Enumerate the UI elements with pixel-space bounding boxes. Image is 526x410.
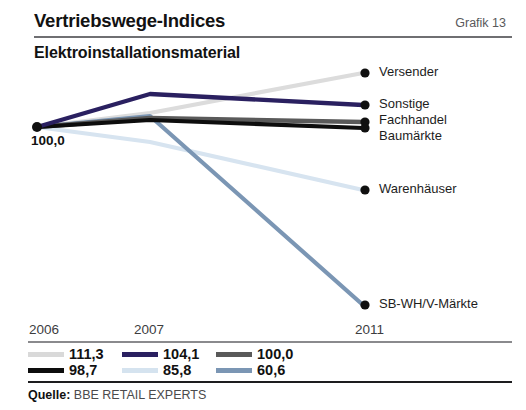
legend-swatch-icon xyxy=(122,352,158,357)
chart-subtitle: Elektroinstallationsmaterial xyxy=(34,44,240,62)
legend-swatch-icon xyxy=(216,368,252,373)
data-point-baumaerkte xyxy=(360,123,369,132)
series-line-baumaerkte xyxy=(37,120,363,128)
chart-page: Vertriebswege-Indices Grafik 13 Elektroi… xyxy=(0,0,526,410)
legend-value: 104,1 xyxy=(163,346,199,362)
series-line-sonstige xyxy=(37,94,363,127)
source-text: BBE RETAIL EXPERTS xyxy=(74,388,206,402)
x-axis-tick-2011: 2011 xyxy=(355,322,384,337)
chart-legend: 111,3 104,1 100,0 98,7 85,8 60,6 xyxy=(28,346,328,378)
series-label-fachhandel: Fachhandel xyxy=(379,113,447,127)
legend-value: 98,7 xyxy=(69,362,97,378)
x-axis-line xyxy=(28,341,512,343)
series-label-sbwh: SB-WH/V-Märkte xyxy=(379,297,478,311)
chart-header: Vertriebswege-Indices Grafik 13 xyxy=(34,10,506,32)
x-axis-tick-2007: 2007 xyxy=(134,322,164,337)
origin-value-label: 100,0 xyxy=(31,133,65,148)
legend-item: 98,7 xyxy=(28,362,122,378)
legend-value: 100,0 xyxy=(257,346,293,362)
x-axis-labels: 2006 2007 2011 xyxy=(0,322,526,342)
series-label-sonstige: Sonstige xyxy=(379,97,430,111)
series-line-warenhaeuser xyxy=(37,127,363,190)
legend-value: 85,8 xyxy=(163,362,191,378)
legend-item: 100,0 xyxy=(216,346,310,362)
data-point-sonstige xyxy=(360,100,369,109)
footer-divider xyxy=(28,381,512,383)
series-label-versender: Versender xyxy=(379,65,438,79)
source-note: Quelle: BBE RETAIL EXPERTS xyxy=(28,388,206,402)
legend-swatch-icon xyxy=(28,368,64,373)
series-label-warenhaeuser: Warenhäuser xyxy=(379,182,457,196)
legend-swatch-icon xyxy=(122,368,158,373)
legend-item: 60,6 xyxy=(216,362,310,378)
legend-item: 111,3 xyxy=(28,346,122,362)
data-point-warenhaeuser xyxy=(360,185,369,194)
legend-item: 85,8 xyxy=(122,362,216,378)
source-label: Quelle: xyxy=(28,388,70,402)
x-axis-tick-2006: 2006 xyxy=(29,322,59,337)
data-point-versender xyxy=(360,68,369,77)
data-point-fachhandel xyxy=(360,117,369,126)
series-line-versender xyxy=(37,73,363,127)
page-title: Vertriebswege-Indices xyxy=(34,10,225,32)
data-point-origin xyxy=(32,122,42,132)
legend-value: 60,6 xyxy=(257,362,285,378)
graphic-number: Grafik 13 xyxy=(455,16,506,30)
legend-item: 104,1 xyxy=(122,346,216,362)
header-divider xyxy=(34,36,512,38)
data-point-sbwh xyxy=(360,300,369,309)
legend-swatch-icon xyxy=(216,352,252,357)
legend-swatch-icon xyxy=(28,352,64,357)
series-label-baumaerkte: Baumärkte xyxy=(379,129,442,143)
series-line-fachhandel xyxy=(37,118,363,127)
legend-value: 111,3 xyxy=(69,346,104,362)
series-line-sbwh xyxy=(37,116,363,305)
